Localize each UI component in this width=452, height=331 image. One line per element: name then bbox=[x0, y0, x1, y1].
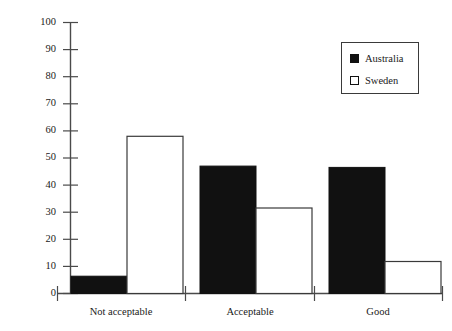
bar-australia-not-acceptable bbox=[71, 276, 127, 293]
y-tick-label-60: 60 bbox=[30, 125, 56, 136]
bar-chart: Percentage of operators 100 90 80 70 60 … bbox=[0, 0, 452, 331]
y-tick-label-40: 40 bbox=[30, 180, 56, 191]
filled-square-icon bbox=[350, 54, 359, 63]
legend-label-australia: Australia bbox=[365, 53, 404, 64]
y-tick-label-0: 0 bbox=[30, 288, 56, 299]
y-tick-label-30: 30 bbox=[30, 207, 56, 218]
bar-sweden-good bbox=[385, 262, 441, 294]
bar-sweden-not-acceptable bbox=[127, 136, 183, 293]
bar-australia-acceptable bbox=[200, 166, 256, 293]
y-tick-label-80: 80 bbox=[30, 71, 56, 82]
y-tick-label-70: 70 bbox=[30, 98, 56, 109]
x-tick-label-not-acceptable: Not acceptable bbox=[61, 306, 181, 317]
y-tick-label-100: 100 bbox=[30, 17, 56, 28]
x-tick-label-good: Good bbox=[318, 306, 438, 317]
chart-legend: Australia Sweden bbox=[341, 42, 419, 94]
bar-sweden-acceptable bbox=[256, 208, 312, 294]
open-square-icon bbox=[350, 76, 359, 85]
legend-label-sweden: Sweden bbox=[365, 75, 398, 86]
y-tick-label-50: 50 bbox=[30, 152, 56, 163]
x-tick-label-acceptable: Acceptable bbox=[190, 306, 310, 317]
bar-australia-good bbox=[329, 167, 385, 293]
legend-item-australia: Australia bbox=[350, 51, 404, 65]
legend-item-sweden: Sweden bbox=[350, 73, 398, 87]
y-tick-label-10: 10 bbox=[30, 261, 56, 272]
y-tick-label-90: 90 bbox=[30, 44, 56, 55]
y-tick-label-20: 20 bbox=[30, 234, 56, 245]
